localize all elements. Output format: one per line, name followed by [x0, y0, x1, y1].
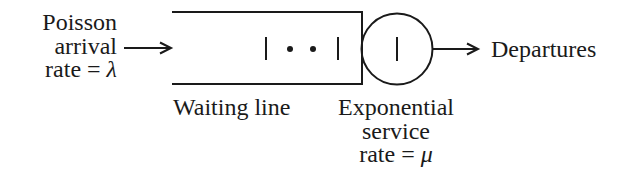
server-line-1: Exponential — [338, 94, 454, 120]
arrival-line-1: Poisson — [42, 9, 117, 35]
ellipsis-dot-icon — [310, 46, 316, 52]
service-rate-prefix: rate = — [359, 141, 421, 167]
departure-arrow-icon — [432, 44, 478, 55]
arrival-label: Poisson arrival rate = λ — [42, 9, 117, 82]
arrival-line-3: rate = λ — [45, 56, 117, 82]
server-line-3: rate = μ — [359, 141, 433, 167]
lambda-symbol: λ — [106, 56, 117, 82]
diagram-canvas: Poisson arrival rate = λ — [0, 0, 631, 174]
waiting-line-label: Waiting line — [173, 94, 290, 120]
ellipsis-dot-icon — [287, 46, 293, 52]
queue-customers — [266, 37, 338, 60]
server-icon — [362, 14, 433, 85]
server-label: Exponential service rate = μ — [338, 94, 454, 167]
arrival-arrow-icon — [124, 43, 171, 54]
departures-label: Departures — [491, 36, 596, 62]
arrival-rate-prefix: rate = — [45, 56, 107, 82]
mu-symbol: μ — [420, 141, 433, 167]
queue-diagram: Poisson arrival rate = λ — [0, 0, 631, 174]
